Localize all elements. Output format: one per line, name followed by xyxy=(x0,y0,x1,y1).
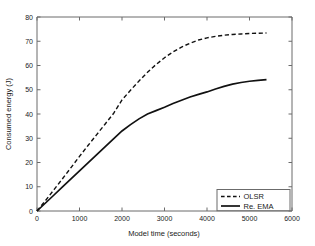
legend-label-re-ema: Re. EMA xyxy=(244,202,274,211)
y-tick-label: 20 xyxy=(25,159,33,166)
chart-legend[interactable]: OLSR Re. EMA xyxy=(217,190,290,211)
y-tick-label: 80 xyxy=(25,14,33,21)
y-tick-label: 70 xyxy=(25,38,33,45)
data-series-group xyxy=(37,33,267,211)
x-tick-label: 0 xyxy=(35,215,39,222)
x-tick-label: 5000 xyxy=(242,215,258,222)
x-tick-label: 3000 xyxy=(157,215,173,222)
x-tick-label: 1000 xyxy=(72,215,88,222)
legend-label-olsr: OLSR xyxy=(244,192,265,201)
y-tick-label: 60 xyxy=(25,62,33,69)
figure-container: 0100020003000400050006000 01020304050607… xyxy=(0,0,315,246)
y-tick-label: 30 xyxy=(25,135,33,142)
y-tick-label: 0 xyxy=(29,208,33,215)
x-axis-title: Model time (seconds) xyxy=(128,229,200,238)
x-tick-label: 2000 xyxy=(114,215,130,222)
y-tick-label: 10 xyxy=(25,183,33,190)
y-axis-title: Consumed energy (J) xyxy=(4,77,13,150)
series-line-olsr xyxy=(37,33,267,211)
axes-frame xyxy=(37,17,292,211)
chart-plot-area: 0100020003000400050006000 01020304050607… xyxy=(0,0,315,246)
x-tick-label: 4000 xyxy=(199,215,215,222)
y-tick-label: 50 xyxy=(25,86,33,93)
y-tick-label: 40 xyxy=(25,111,33,118)
x-tick-label: 6000 xyxy=(284,215,300,222)
